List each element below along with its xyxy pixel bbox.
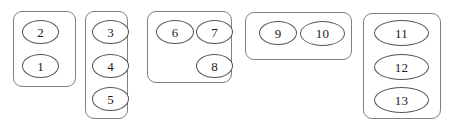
node-9[interactable]: 9 bbox=[259, 21, 297, 45]
node-4[interactable]: 4 bbox=[92, 54, 129, 78]
node-11[interactable]: 11 bbox=[374, 20, 429, 46]
node-6[interactable]: 6 bbox=[156, 20, 194, 44]
diagram-canvas: 21345678910111213 bbox=[0, 0, 451, 128]
node-13[interactable]: 13 bbox=[374, 87, 429, 113]
node-7[interactable]: 7 bbox=[196, 20, 233, 44]
node-1[interactable]: 1 bbox=[22, 54, 59, 78]
node-3[interactable]: 3 bbox=[92, 20, 129, 44]
node-2[interactable]: 2 bbox=[22, 20, 59, 44]
node-10[interactable]: 10 bbox=[300, 21, 345, 46]
node-12[interactable]: 12 bbox=[374, 54, 429, 80]
node-8[interactable]: 8 bbox=[196, 54, 233, 78]
node-5[interactable]: 5 bbox=[92, 87, 129, 111]
